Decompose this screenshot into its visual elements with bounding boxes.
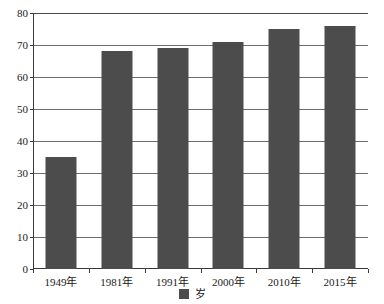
x-axis-label-2000: 2000年 <box>212 275 245 289</box>
x-axis-label-1991: 1991年 <box>156 275 189 289</box>
y-axis-label-50: 50 <box>2 104 28 115</box>
legend-swatch-icon <box>179 289 189 299</box>
bar-2015[interactable] <box>325 26 356 269</box>
bars-layer <box>33 13 368 269</box>
x-axis-tick-6 <box>368 269 369 273</box>
x-axis-tick-1 <box>89 269 90 273</box>
x-axis-label-1949: 1949年 <box>44 275 77 289</box>
bar-chart: 80 70 60 50 40 30 20 10 0 <box>0 0 384 304</box>
y-axis-label-10: 10 <box>2 232 28 243</box>
bar-1949[interactable] <box>45 157 76 269</box>
bar-1981[interactable] <box>101 51 132 269</box>
chart-legend: 岁 <box>0 288 384 300</box>
bar-slot-1991 <box>145 13 201 269</box>
y-axis-label-30: 30 <box>2 168 28 179</box>
x-axis-label-1981: 1981年 <box>100 275 133 289</box>
y-axis-label-70: 70 <box>2 40 28 51</box>
y-axis-label-60: 60 <box>2 72 28 83</box>
y-axis-label-20: 20 <box>2 200 28 211</box>
bar-2000[interactable] <box>213 42 244 269</box>
bar-slot-2000 <box>201 13 257 269</box>
legend-label-sui: 岁 <box>195 288 206 300</box>
x-axis-tick-0 <box>33 269 34 273</box>
x-axis-tick-2 <box>145 269 146 273</box>
y-axis-label-80: 80 <box>2 8 28 19</box>
y-axis-label-0: 0 <box>2 264 28 275</box>
bar-2010[interactable] <box>269 29 300 269</box>
bar-slot-2015 <box>312 13 368 269</box>
x-axis-tick-5 <box>312 269 313 273</box>
bar-slot-2010 <box>256 13 312 269</box>
bar-1991[interactable] <box>157 48 188 269</box>
bar-slot-1949 <box>33 13 89 269</box>
bar-slot-1981 <box>89 13 145 269</box>
x-axis-label-2015: 2015年 <box>324 275 357 289</box>
x-axis-tick-4 <box>256 269 257 273</box>
x-axis-label-2010: 2010年 <box>268 275 301 289</box>
y-axis-label-40: 40 <box>2 136 28 147</box>
x-axis-tick-3 <box>201 269 202 273</box>
